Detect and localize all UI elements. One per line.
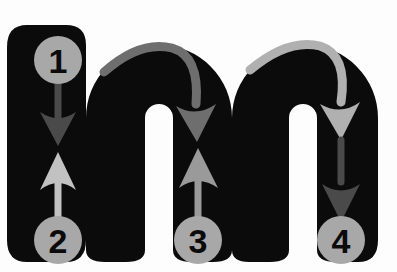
stroke-marker-1-label: 1 (49, 42, 68, 80)
stroke-order-figure: 1 2 3 4 (0, 0, 397, 272)
stroke-marker-4: 4 (317, 216, 365, 264)
letter-m-diagram: 1 2 3 4 (0, 0, 397, 272)
stroke-marker-3-label: 3 (189, 222, 208, 260)
stroke-marker-4-label: 4 (332, 222, 351, 260)
stroke-marker-2-label: 2 (49, 222, 68, 260)
stroke-marker-2: 2 (34, 216, 82, 264)
stroke-marker-3: 3 (174, 216, 222, 264)
stroke-marker-1: 1 (34, 36, 82, 84)
